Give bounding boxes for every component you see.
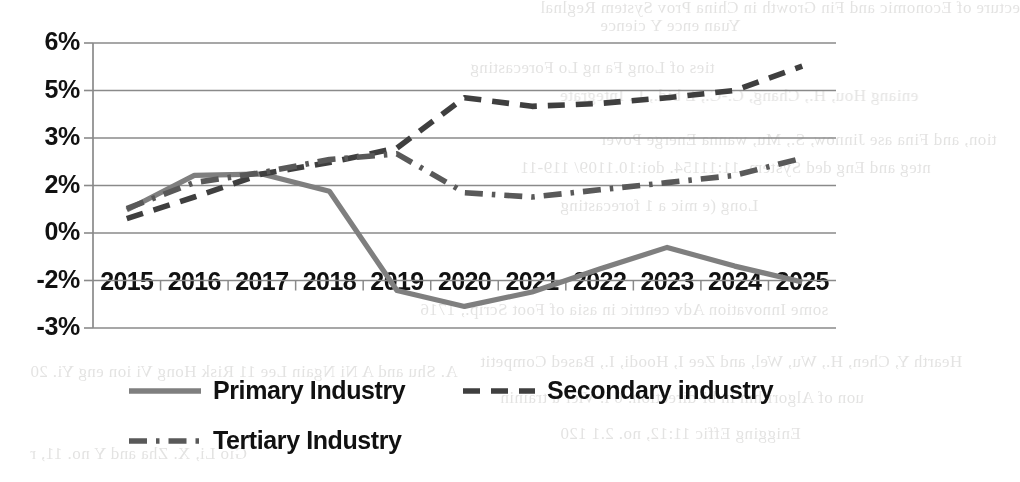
legend-item-label: Primary Industry — [213, 376, 405, 405]
legend-item[interactable]: Tertiary Industry — [128, 426, 402, 455]
legend-line-swatch — [128, 384, 202, 398]
legend-line-swatch — [128, 434, 202, 448]
legend-item-label: Tertiary Industry — [213, 426, 402, 455]
legend-line-swatch — [462, 384, 536, 398]
series-line — [127, 154, 802, 209]
legend-item-label: Secondary industry — [547, 376, 773, 405]
legend-item[interactable]: Primary Industry — [128, 376, 405, 405]
gridlines — [93, 43, 836, 328]
legend-item[interactable]: Secondary industry — [462, 376, 773, 405]
series-line — [127, 66, 802, 219]
data-series — [127, 66, 802, 306]
